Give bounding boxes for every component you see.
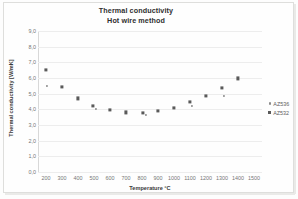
data-point [108,109,111,112]
grid-line-y [38,31,262,32]
grid-line-y [38,94,262,95]
y-axis-tick-labels: 0,01,02,03,04,05,06,07,08,09,0 [12,31,36,172]
grid-line-y [38,141,262,142]
x-axis-tick-labels: 2003004005006007008009001000110012001300… [38,175,262,185]
data-point [220,86,223,89]
data-point [191,105,193,107]
x-axis-title: Temperature °C [38,185,262,191]
x-tick-label: 1500 [243,175,265,181]
plot-area [38,31,262,172]
data-point [46,85,48,87]
data-point [172,106,175,109]
legend-item-az536[interactable]: AZ536 [268,99,298,108]
grid-line-y [38,47,262,48]
data-point [156,109,159,112]
y-tick-label: 0,0 [14,169,36,175]
y-axis-title: Thermal conductivity [W/mK] [8,33,14,163]
y-tick-label: 6,0 [14,75,36,81]
data-point [188,101,191,104]
data-point [124,111,127,114]
chart-screenshot: Thermal conductivity Hot wire method 0,0… [0,0,298,199]
data-point [76,97,79,100]
data-point [141,111,144,114]
data-point [145,114,147,116]
legend-label: AZ532 [273,110,289,116]
y-tick-label: 3,0 [14,122,36,128]
data-point [223,95,225,97]
chart-legend: AZ536AZ532 [268,99,298,117]
grid-line-y [38,156,262,157]
chart-title: Thermal conductivity [0,6,272,15]
grid-line-y [38,172,262,173]
y-tick-label: 5,0 [14,91,36,97]
y-tick-label: 8,0 [14,44,36,50]
chart-subtitle: Hot wire method [0,16,272,25]
data-point [60,85,63,88]
legend-label: AZ536 [273,101,289,107]
data-point [204,94,207,97]
data-point [92,104,95,107]
legend-square-marker-icon [268,111,271,114]
grid-line-y [38,125,262,126]
y-tick-label: 1,0 [14,153,36,159]
legend-item-az532[interactable]: AZ532 [268,108,298,117]
y-tick-label: 9,0 [14,28,36,34]
legend-dot-marker-icon [269,102,271,104]
y-tick-label: 7,0 [14,59,36,65]
grid-line-y [38,78,262,79]
data-point [44,69,47,72]
grid-line-y [38,109,262,110]
data-point [236,77,239,80]
grid-line-y [38,62,262,63]
page-frame-shadow-bottom [5,193,295,195]
y-tick-label: 4,0 [14,106,36,112]
y-tick-label: 2,0 [14,138,36,144]
